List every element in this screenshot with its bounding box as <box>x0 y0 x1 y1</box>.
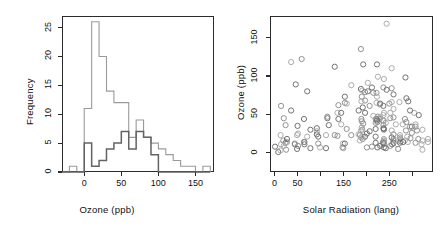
x-tick-mark <box>343 172 344 176</box>
scatter-point <box>408 136 413 141</box>
y-tick-label-50: 50 <box>249 102 259 124</box>
x-tick-label-150: 150 <box>188 178 203 188</box>
scatter-point <box>416 113 421 118</box>
scatter-point <box>381 76 386 81</box>
y-tick-mark <box>266 75 270 76</box>
scatter-point <box>293 82 298 87</box>
x-tick-label-0: 0 <box>82 178 87 188</box>
y-tick-mark <box>266 114 270 115</box>
scatter-point <box>323 146 328 151</box>
scatter-point <box>305 89 310 94</box>
scatter-point <box>332 64 337 69</box>
scatter-point <box>295 131 300 136</box>
scatter-point <box>407 108 412 113</box>
scatter-point <box>339 122 344 127</box>
scatter-point <box>308 146 313 151</box>
x-tick-mark <box>320 172 321 176</box>
scatter-point <box>344 126 349 131</box>
x-tick-mark <box>121 172 122 176</box>
y-tick-mark <box>58 27 62 28</box>
y-tick-label-10: 10 <box>43 105 53 121</box>
x-tick-mark <box>274 172 275 176</box>
scatter-point <box>383 146 388 151</box>
scatter-point <box>342 94 347 99</box>
scatter-point <box>389 86 394 91</box>
scatter-point <box>420 147 425 152</box>
x-tick-mark <box>389 172 390 176</box>
scatter-point <box>362 110 367 115</box>
scatter-point <box>365 80 370 85</box>
scatter-point <box>373 126 378 131</box>
x-tick-label-0: 0 <box>272 178 277 188</box>
scatter-point <box>358 46 363 51</box>
scatter-point <box>409 130 414 135</box>
scatter-point <box>283 123 288 128</box>
x-tick-mark <box>195 172 196 176</box>
x-tick-mark <box>366 172 367 176</box>
scatter-point <box>374 62 379 67</box>
scatter-panel: 050150250050100150 Ozone (ppb) Solar Rad… <box>223 0 446 229</box>
x-tick-label-50: 50 <box>293 178 303 188</box>
scatter-point <box>294 146 299 151</box>
y-tick-mark <box>266 152 270 153</box>
scatter-point <box>295 123 300 128</box>
scatter-point <box>289 60 294 65</box>
y-tick-mark <box>58 85 62 86</box>
scatter-point <box>326 123 331 128</box>
scatter-y-axis-label: Ozone (ppb) <box>235 65 246 120</box>
scatter-point <box>323 133 328 138</box>
x-tick-label-100: 100 <box>151 178 166 188</box>
scatter-point <box>413 140 418 145</box>
histogram-panel: 0501001500510152025 Frequency Ozone (ppb… <box>0 0 223 229</box>
scatter-point <box>374 94 379 99</box>
scatter-point <box>281 116 286 121</box>
scatter-point <box>336 116 341 121</box>
scatter-point <box>289 108 294 113</box>
y-tick-label-0: 0 <box>249 141 259 163</box>
y-tick-label-0: 0 <box>43 163 53 179</box>
scatter-point <box>301 116 306 121</box>
scatter-point <box>278 133 283 138</box>
scatter-point <box>356 108 361 113</box>
figure-root: 0501001500510152025 Frequency Ozone (ppb… <box>0 0 446 229</box>
scatter-point <box>369 144 374 149</box>
scatter-point <box>367 103 372 108</box>
y-tick-mark <box>58 56 62 57</box>
y-tick-label-150: 150 <box>249 26 259 48</box>
x-tick-label-150: 150 <box>336 178 351 188</box>
x-tick-label-50: 50 <box>116 178 126 188</box>
scatter-point <box>403 75 408 80</box>
scatter-point <box>339 110 344 115</box>
y-tick-mark <box>266 37 270 38</box>
scatter-point <box>391 92 396 97</box>
y-tick-label-15: 15 <box>43 76 53 92</box>
y-tick-mark <box>58 171 62 172</box>
scatter-point <box>336 103 341 108</box>
scatter-point <box>364 145 369 150</box>
scatter-point <box>349 133 354 138</box>
scatter-point <box>389 66 394 71</box>
scatter-x-axis-label: Solar Radiation (lang) <box>303 204 399 215</box>
x-tick-mark <box>297 172 298 176</box>
histogram-y-axis-label: Frequency <box>24 78 35 125</box>
y-tick-mark <box>58 114 62 115</box>
scatter-point <box>391 115 396 120</box>
y-tick-label-25: 25 <box>43 19 53 35</box>
histogram-x-axis-label: Ozone (ppb) <box>79 204 134 215</box>
scatter-point <box>373 134 378 139</box>
scatter-point <box>299 56 304 61</box>
scatter-point <box>391 106 396 111</box>
y-tick-mark <box>58 143 62 144</box>
x-tick-mark <box>84 172 85 176</box>
scatter-point <box>375 74 380 79</box>
scatter-point <box>278 103 283 108</box>
scatter-point <box>272 144 277 149</box>
scatter-point <box>384 21 389 26</box>
scatter-point <box>305 134 310 139</box>
scatter-point <box>349 83 354 88</box>
y-tick-label-20: 20 <box>43 47 53 63</box>
scatter-point <box>420 127 425 132</box>
scatter-point <box>393 122 398 127</box>
x-tick-mark <box>412 172 413 176</box>
y-tick-label-100: 100 <box>249 64 259 86</box>
